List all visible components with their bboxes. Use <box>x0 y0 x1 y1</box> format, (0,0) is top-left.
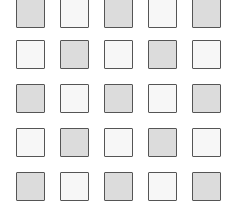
grid-square-gray <box>192 0 221 28</box>
grid-square-gray <box>16 172 45 201</box>
grid-square-gray <box>192 172 221 201</box>
grid-square-gray <box>16 84 45 113</box>
grid-square-gray <box>104 172 133 201</box>
grid-square-white <box>192 128 221 157</box>
grid-square-gray <box>192 84 221 113</box>
grid-square-white <box>192 40 221 69</box>
checkerboard-grid <box>0 0 236 220</box>
grid-square-gray <box>60 40 89 69</box>
grid-square-white <box>60 172 89 201</box>
grid-square-white <box>104 40 133 69</box>
grid-square-gray <box>60 128 89 157</box>
grid-square-gray <box>104 84 133 113</box>
grid-square-gray <box>148 128 177 157</box>
grid-square-white <box>104 128 133 157</box>
grid-square-gray <box>148 40 177 69</box>
grid-square-white <box>16 128 45 157</box>
grid-square-white <box>148 84 177 113</box>
grid-square-white <box>60 84 89 113</box>
grid-square-white <box>148 172 177 201</box>
grid-square-gray <box>16 0 45 28</box>
grid-square-white <box>60 0 89 28</box>
grid-square-gray <box>104 0 133 28</box>
grid-square-white <box>148 0 177 28</box>
grid-square-white <box>16 40 45 69</box>
